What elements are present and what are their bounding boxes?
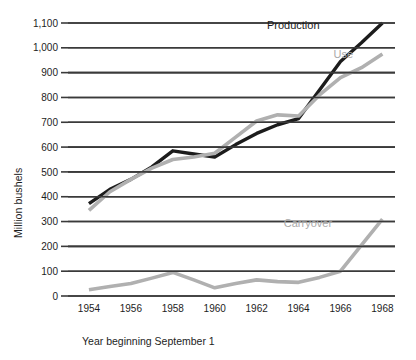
x-tick-label: 1954 xyxy=(78,303,101,314)
chart-container: 01002003004005006007008009001,0001,100 1… xyxy=(0,0,416,360)
y-tick-label: 1,000 xyxy=(33,42,58,53)
y-tick-label: 600 xyxy=(41,142,58,153)
y-axis-tick-labels-group: 01002003004005006007008009001,0001,100 xyxy=(33,18,58,302)
x-tick-label: 1956 xyxy=(120,303,143,314)
x-tick-label: 1962 xyxy=(246,303,269,314)
gridlines-overlay-group xyxy=(68,23,395,296)
x-tick-label: 1964 xyxy=(287,303,310,314)
x-axis-tick-labels-group: 19541956195819601962196419661968 xyxy=(78,303,394,314)
y-tick-label: 700 xyxy=(41,117,58,128)
y-tick-label: 900 xyxy=(41,67,58,78)
y-axis-title: Million bushels xyxy=(12,168,24,238)
series-lines-group xyxy=(89,23,382,290)
y-tick-label: 500 xyxy=(41,167,58,178)
series-label-carryover: Carryover xyxy=(284,217,333,229)
y-tick-label: 300 xyxy=(41,216,58,227)
y-tick-label: 100 xyxy=(41,266,58,277)
gridlines-group xyxy=(68,23,395,296)
x-tick-label: 1966 xyxy=(329,303,352,314)
x-tick-label: 1958 xyxy=(162,303,185,314)
y-tick-label: 800 xyxy=(41,92,58,103)
series-label-use: Use xyxy=(334,48,354,60)
line-chart: 01002003004005006007008009001,0001,100 1… xyxy=(0,0,416,360)
series-label-production: Production xyxy=(267,19,320,31)
y-tick-label: 200 xyxy=(41,241,58,252)
series-line-use xyxy=(89,54,382,210)
y-tick-label: 400 xyxy=(41,191,58,202)
y-axis-ticks-group xyxy=(61,23,68,296)
series-line-carryover xyxy=(89,219,382,290)
y-tick-label: 1,100 xyxy=(33,18,58,29)
y-tick-label: 0 xyxy=(52,291,58,302)
x-axis-title: Year beginning September 1 xyxy=(82,335,215,347)
x-tick-label: 1968 xyxy=(371,303,394,314)
x-tick-label: 1960 xyxy=(204,303,227,314)
